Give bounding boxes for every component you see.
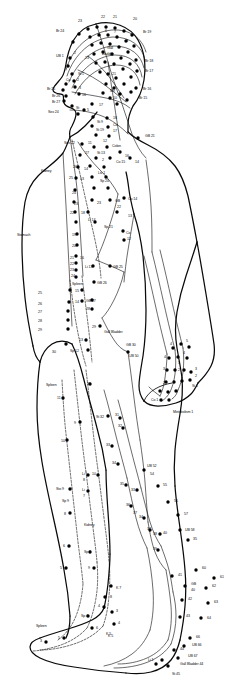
point-label-br25: Br 25 <box>47 88 55 92</box>
point-label-gbl44: Gall Bladder 44 <box>180 663 203 667</box>
point-label-n22: 22 <box>101 16 105 20</box>
point-label-li13: Li 13 <box>85 266 92 270</box>
point-label-n2c: 2 <box>102 159 104 163</box>
point-label-n21c: 21 <box>70 257 74 261</box>
point-label-kidney1: Kidney <box>41 170 51 174</box>
point-label-n11a: 11 <box>88 142 92 146</box>
point-label-gb26: GB 26 <box>97 282 107 286</box>
point-label-n3c: 3 <box>163 368 165 372</box>
point-label-n4e: 4 <box>118 622 120 626</box>
point-label-n8a: 8 <box>64 513 66 517</box>
point-label-n13b: 13 <box>128 215 132 219</box>
point-label-n12a: 12 <box>103 140 107 144</box>
point-label-br26: Br 26 <box>52 95 60 99</box>
point-label-n31a: 31 <box>87 383 91 387</box>
point-label-n55a: 55 <box>163 484 167 488</box>
point-label-sex22: Sex 22 <box>64 142 75 146</box>
point-label-li14: Li 14 <box>88 219 95 223</box>
point-label-n22b: 22 <box>117 206 121 210</box>
point-label-n4a: 4 <box>170 343 172 347</box>
point-label-ub1: UB 1 <box>56 55 64 59</box>
point-label-n26b: 26 <box>38 303 42 307</box>
point-label-n16a: 16 <box>82 94 86 98</box>
point-label-gbh2: bladder <box>102 53 113 57</box>
point-label-li1: Li 1 <box>148 659 153 663</box>
point-label-n62a: 62 <box>212 585 216 589</box>
point-label-n34a: 34 <box>112 462 116 466</box>
point-label-n57a: 57 <box>184 513 188 517</box>
point-label-gallbladder: Gall Bladder <box>104 331 123 335</box>
point-label-st9: St 9 <box>97 121 103 125</box>
point-label-n15a: 15 <box>75 290 79 294</box>
point-label-li7a: Li <box>82 489 85 493</box>
point-label-n8b: 8 <box>110 596 112 600</box>
point-label-n32a: 32 <box>118 425 122 429</box>
point-label-n10b: 10 <box>61 440 65 444</box>
point-label-n9b: 9 <box>88 567 90 571</box>
point-label-n36a: 36 <box>126 504 130 508</box>
point-label-n17a: 17 <box>99 104 103 108</box>
point-label-n23c: 23 <box>74 203 78 207</box>
point-label-n35b: 35 <box>193 538 197 542</box>
point-label-n33a: 33 <box>106 444 110 448</box>
point-label-co2: Co <box>66 79 70 83</box>
point-label-n64a: 64 <box>207 617 211 621</box>
point-label-st1: St 1 <box>78 73 84 77</box>
point-label-sp4: Sp 4 <box>81 615 88 619</box>
point-label-n26a: 26 <box>73 166 77 170</box>
point-label-n20a: 20 <box>72 245 76 249</box>
point-label-n25a: 25 <box>69 177 73 181</box>
point-label-st45: St 45 <box>172 673 180 677</box>
point-label-n40a: 40 <box>163 532 167 536</box>
point-label-n66a: 66 <box>196 636 200 640</box>
point-label-li8b: 8 <box>83 479 85 483</box>
point-label-n23b: 23 <box>85 57 89 61</box>
point-label-k1: K 5 <box>108 635 113 639</box>
point-label-n3b: 3 <box>178 362 180 366</box>
point-label-n5d: 5 <box>58 637 60 641</box>
point-label-si1: Si 1 <box>192 385 198 389</box>
point-label-n13a: 13 <box>80 178 84 182</box>
point-label-n7: 7 <box>114 31 116 35</box>
point-label-n61a: 61 <box>220 576 224 580</box>
point-label-n29b: 29 <box>92 326 96 330</box>
point-label-n25b: 25 <box>38 292 42 296</box>
point-label-gb30: GB 30 <box>126 344 136 348</box>
acupuncture-chart: Br 242322212067Br 198GallbladderUB 1223B… <box>0 0 244 686</box>
point-label-gb27: GB 27 <box>86 300 96 304</box>
point-label-st32: St 32 <box>96 416 104 420</box>
point-label-ub58: UB 58 <box>185 529 195 533</box>
point-label-spleen1: Spleen <box>72 283 83 287</box>
point-label-n37a: 37 <box>133 512 137 516</box>
point-label-n38a: 38 <box>153 533 157 537</box>
point-label-n9a: 9 <box>74 422 76 426</box>
point-label-n16c: 16 <box>80 257 84 261</box>
point-label-metab1: Metabolism 1 <box>173 411 193 415</box>
point-label-co17a: Co <box>113 124 117 128</box>
point-label-n24a: 24 <box>72 192 76 196</box>
point-label-n16b: 16 <box>125 155 129 159</box>
point-label-n22c: 22 <box>70 212 74 216</box>
point-label-n22d: 22 <box>70 263 74 267</box>
point-label-n42a: 42 <box>188 598 192 602</box>
point-label-n6b: 6 <box>96 627 98 631</box>
point-label-n30a: 30 <box>52 351 56 355</box>
point-label-n33b: 33 <box>131 489 135 493</box>
point-label-k7: K 7 <box>116 587 121 591</box>
point-label-n11b: 11 <box>57 397 61 401</box>
point-label-n23: 23 <box>78 20 82 24</box>
point-label-gb25: GB 25 <box>113 266 123 270</box>
point-label-n5c: 5 <box>60 567 62 571</box>
point-label-gb40b: 40 <box>191 589 195 593</box>
point-label-n27b: 27 <box>38 311 42 315</box>
point-label-n54a: 54 <box>150 473 154 477</box>
point-label-n17b: 17 <box>113 130 117 134</box>
point-label-n29a: 29 <box>38 329 42 333</box>
point-label-n43a: 43 <box>186 615 190 619</box>
point-label-gb21: GB 21 <box>145 135 155 139</box>
point-label-gbh1: Gall <box>107 47 113 51</box>
point-label-ub66: UB 66 <box>192 644 202 648</box>
point-label-stomach: Stomach <box>17 234 30 238</box>
point-label-sp20: Sp 20 <box>100 180 109 184</box>
point-label-br18: Br 18 <box>145 60 153 64</box>
